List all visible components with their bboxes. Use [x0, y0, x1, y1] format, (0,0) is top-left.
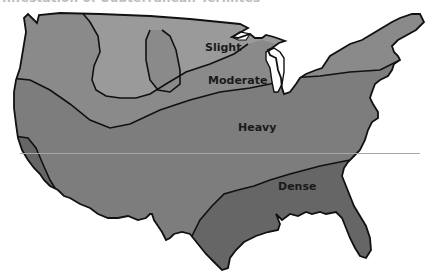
label-heavy: Heavy	[238, 121, 276, 134]
scan-artifact-line	[20, 153, 420, 154]
label-moderate: Moderate	[208, 74, 267, 87]
label-dense: Dense	[278, 180, 316, 193]
label-slight: Slight	[205, 41, 241, 54]
